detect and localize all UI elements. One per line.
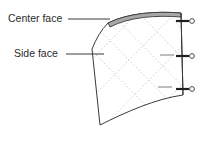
tick-arrow-group bbox=[158, 55, 174, 87]
figure-container: Center face Side face bbox=[0, 0, 201, 142]
marker-bottom-circle bbox=[190, 87, 195, 92]
marker-middle bbox=[176, 54, 194, 59]
side-face-label: Side face bbox=[14, 47, 58, 59]
marker-bottom bbox=[176, 87, 194, 92]
marker-middle-circle bbox=[190, 54, 195, 59]
grid-line-diag-b2 bbox=[100, 26, 201, 130]
center-face-label: Center face bbox=[8, 12, 62, 24]
edge-marker-group bbox=[176, 19, 194, 92]
marker-top-circle bbox=[190, 19, 195, 24]
grid-line-diag-a4 bbox=[56, 14, 158, 118]
grid-line-diag-b4 bbox=[122, 42, 201, 142]
center-face-shaded-band bbox=[108, 12, 181, 27]
marker-top bbox=[176, 19, 194, 24]
technical-diagram: Center face Side face bbox=[0, 0, 201, 142]
curved-shell-outline bbox=[92, 12, 183, 125]
grid-line-diag-a2 bbox=[100, 2, 201, 106]
right-vertical-edge bbox=[181, 13, 183, 95]
